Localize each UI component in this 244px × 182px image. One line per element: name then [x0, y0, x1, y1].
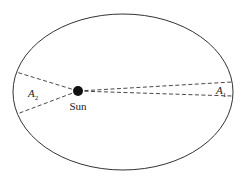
sun-dot [73, 86, 83, 96]
a1-lower-radius-line [78, 91, 232, 96]
a1-label: A1 [215, 84, 227, 99]
sun-label: Sun [69, 100, 87, 112]
a1-upper-radius-line [78, 82, 232, 91]
orbit-ellipse [13, 14, 233, 170]
orbit-diagram: Sun A2 A1 [0, 0, 244, 182]
a2-upper-radius-line [16, 72, 78, 91]
a2-label: A2 [27, 87, 39, 102]
